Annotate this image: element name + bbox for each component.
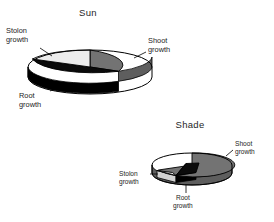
shade-shoot-leader-line bbox=[226, 150, 233, 156]
shade-pie-chart bbox=[0, 0, 274, 222]
shade-root-growth-label: Root growth bbox=[173, 194, 193, 210]
shade-root-growth-label-line2: growth bbox=[173, 202, 193, 210]
shade-stolon-growth-label-line1: Stolon bbox=[119, 170, 139, 178]
shade-root-growth-label-line1: Root bbox=[173, 194, 193, 202]
pie-chart-figure: Sun Stolon growth Shoot growth Root grow… bbox=[0, 0, 274, 222]
shade-chart-title: Shade bbox=[160, 119, 220, 130]
shade-shoot-growth-label-line1: Shoot bbox=[235, 140, 255, 148]
shade-shoot-growth-label: Shoot growth bbox=[235, 140, 255, 156]
shade-stolon-growth-label-line2: growth bbox=[119, 178, 139, 186]
shade-shoot-growth-label-line2: growth bbox=[235, 148, 255, 156]
shade-stolon-growth-label: Stolon growth bbox=[119, 170, 139, 186]
